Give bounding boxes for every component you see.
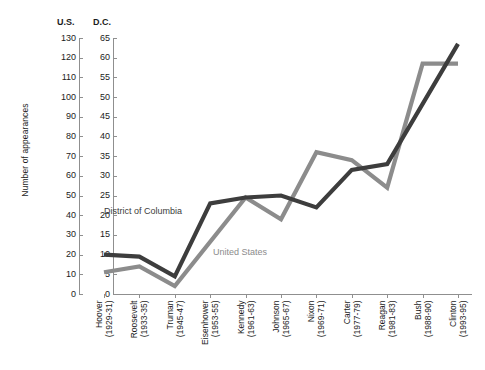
- category-years: (1953-55): [210, 301, 220, 370]
- category-years: (1993-95): [458, 301, 468, 370]
- x-axis-category-label: Clinton(1993-95): [451, 298, 465, 368]
- category-years: (1933-35): [139, 301, 149, 370]
- x-axis-category-label: Roosevelt(1933-35): [132, 298, 146, 368]
- x-axis-category-label: Carter(1977-79): [345, 298, 359, 368]
- x-axis-category-label: Johnson(1965-67): [274, 298, 288, 368]
- x-axis-category-label: Truman(1945-47): [168, 298, 182, 368]
- x-axis-category-label: Eisenhower(1953-55): [203, 298, 217, 368]
- chart-container: Number of appearances U.S. D.C. 13065120…: [0, 0, 485, 370]
- category-name: Truman: [165, 301, 175, 370]
- category-name: Bush: [413, 301, 423, 370]
- category-years: (1969-71): [316, 301, 326, 370]
- series-line-united-states: [104, 64, 458, 287]
- series-line-district-of-columbia: [104, 44, 458, 276]
- category-years: (1945-47): [175, 301, 185, 370]
- category-years: (1988-90): [423, 301, 433, 370]
- series-label-united-states: United States: [213, 247, 267, 257]
- category-name: Kennedy: [236, 301, 246, 370]
- category-years: (1977-79): [352, 301, 362, 370]
- x-axis-category-label: Kennedy(1961-63): [239, 298, 253, 368]
- category-years: (1961-63): [246, 301, 256, 370]
- category-name: Carter: [342, 301, 352, 370]
- x-axis-category-label: Nixon(1969-71): [309, 298, 323, 368]
- category-years: (1929-31): [104, 301, 114, 370]
- x-axis-category-label: Hoover(1929-31): [97, 298, 111, 368]
- category-years: (1981-83): [387, 301, 397, 370]
- category-years: (1965-67): [281, 301, 291, 370]
- x-axis-category-label: Reagan(1981-83): [380, 298, 394, 368]
- series-label-district-of-columbia: District of Columbia: [104, 206, 182, 216]
- x-axis-category-label: Bush(1988-90): [416, 298, 430, 368]
